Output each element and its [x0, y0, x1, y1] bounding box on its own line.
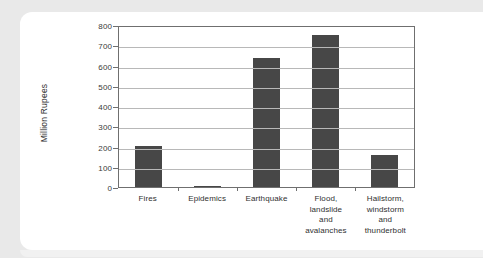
y-axis-tick-mark: [113, 168, 118, 169]
y-axis-tick-label: 100: [98, 163, 112, 172]
bar-cell[interactable]: [178, 27, 237, 187]
y-axis-title: Million Rupees: [39, 63, 49, 163]
gridline: [119, 47, 414, 48]
gridline: [119, 108, 414, 109]
bar[interactable]: [312, 35, 339, 187]
x-axis-label-line: windstorm: [356, 205, 415, 216]
y-axis-tick-label: 200: [98, 143, 112, 152]
plot-area: [118, 26, 415, 188]
y-axis-tick-mark: [113, 188, 118, 189]
x-axis-category-label: Flood,landslideandavalanches: [296, 194, 355, 236]
x-axis-label-line: landslide: [296, 205, 355, 216]
bar[interactable]: [194, 186, 221, 188]
y-axis-tick-label: 400: [98, 103, 112, 112]
bar-chart: Million Rupees 8007006005004003002001000…: [0, 0, 483, 273]
x-axis-label-line: Earthquake: [237, 194, 296, 205]
gridline: [119, 88, 414, 89]
x-axis-label-line: and: [356, 215, 415, 226]
bar-cell[interactable]: [119, 27, 178, 187]
x-axis-category-label: Earthquake: [237, 194, 296, 236]
bar-cell[interactable]: [355, 27, 414, 187]
bar-cell[interactable]: [296, 27, 355, 187]
gridline: [119, 128, 414, 129]
x-axis-label-line: Fires: [118, 194, 177, 205]
bar-cell[interactable]: [237, 27, 296, 187]
y-axis-tick-mark: [113, 46, 118, 47]
x-axis-label-line: thunderbolt: [356, 226, 415, 237]
x-axis-category-label: Epidemics: [177, 194, 236, 236]
x-axis-label-line: Hailstorm,: [356, 194, 415, 205]
x-axis-tick-mark: [355, 187, 356, 191]
y-axis-tick-mark: [113, 107, 118, 108]
x-axis-label-line: and: [296, 215, 355, 226]
y-axis-tick-mark: [113, 26, 118, 27]
x-axis-category-label: Fires: [118, 194, 177, 236]
y-axis-tick-label: 0: [107, 184, 112, 193]
gridline: [119, 68, 414, 69]
y-axis-tick-mark: [113, 127, 118, 128]
gridline: [119, 149, 414, 150]
bars-layer: [119, 27, 414, 187]
x-axis-tick-mark: [237, 187, 238, 191]
x-axis-label-line: Flood,: [296, 194, 355, 205]
y-axis-tick-mark: [113, 67, 118, 68]
x-axis-label-line: Epidemics: [177, 194, 236, 205]
y-axis-labels: 8007006005004003002001000: [86, 26, 112, 188]
y-axis-tick-label: 600: [98, 62, 112, 71]
chart-page: Million Rupees 8007006005004003002001000…: [0, 0, 483, 273]
gridline: [119, 169, 414, 170]
x-axis-label-line: avalanches: [296, 226, 355, 237]
x-axis-labels: FiresEpidemicsEarthquakeFlood,landslidea…: [118, 194, 415, 236]
x-axis-tick-mark: [178, 187, 179, 191]
y-axis-tick-label: 300: [98, 123, 112, 132]
y-axis-tick-mark: [113, 87, 118, 88]
bar[interactable]: [135, 146, 162, 188]
y-axis-tick-label: 500: [98, 82, 112, 91]
bar[interactable]: [253, 58, 280, 187]
x-axis-tick-mark: [296, 187, 297, 191]
bar[interactable]: [371, 155, 398, 187]
y-axis-tick-mark: [113, 148, 118, 149]
y-axis-tick-label: 800: [98, 22, 112, 31]
x-axis-category-label: Hailstorm,windstormandthunderbolt: [356, 194, 415, 236]
y-axis-tick-label: 700: [98, 42, 112, 51]
